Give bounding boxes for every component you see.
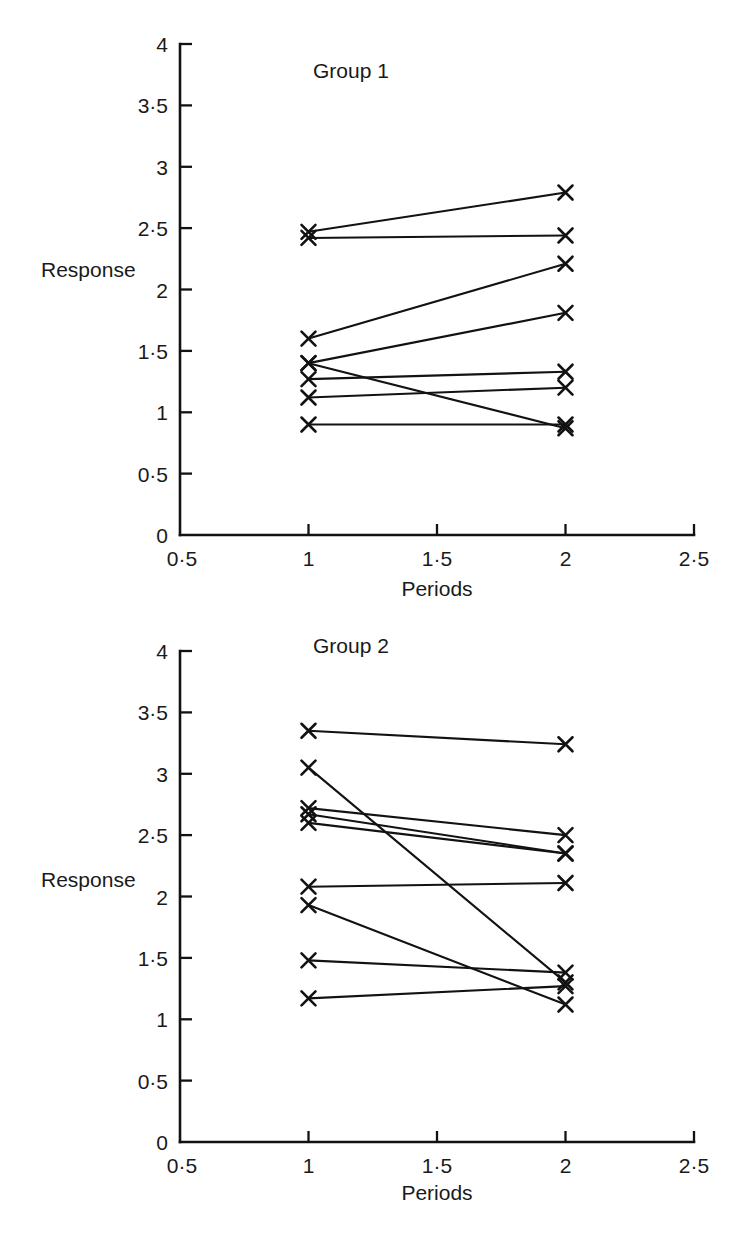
chart-panel-group-2: 4 3·5 3 2·5 2 1·5 1 0·5 0 0·5 1 1·5 2 2·…	[0, 600, 745, 1200]
series-line	[309, 264, 566, 339]
x-axis-ticks	[309, 524, 695, 535]
crossover-response-figure: 4 3·5 3 2·5 2 1·5 1 0·5 0 0·5 1 1·5 2 2·…	[0, 0, 745, 1237]
panel-title: Group 1	[313, 59, 389, 82]
x-axis-title: Periods	[401, 577, 472, 600]
y-tick-label: 2	[156, 886, 168, 909]
group-1-axes	[180, 44, 694, 535]
series-line	[309, 883, 566, 887]
x-tick-label: 2	[560, 547, 572, 570]
y-tick-label: 1·5	[138, 340, 168, 363]
y-tick-label: 0	[156, 1131, 168, 1154]
group-1-y-tick-labels: 4 3·5 3 2·5 2 1·5 1 0·5 0	[138, 33, 169, 547]
y-tick-label: 0·5	[138, 1070, 168, 1093]
y-tick-label: 0·5	[138, 463, 168, 486]
series-line	[309, 905, 566, 1004]
y-tick-label: 2	[156, 279, 168, 302]
group-2-axes	[180, 651, 694, 1142]
group-2-y-tick-labels: 4 3·5 3 2·5 2 1·5 1 0·5 0	[138, 640, 169, 1154]
x-tick-label: 1	[303, 1154, 315, 1177]
series-line	[309, 313, 566, 363]
data-point-marker	[302, 898, 316, 912]
y-tick-label: 2·5	[138, 217, 168, 240]
series-line	[309, 960, 566, 972]
series-line	[309, 768, 566, 983]
data-point-marker	[302, 332, 316, 346]
x-axis-ticks	[309, 1131, 695, 1142]
y-axis-ticks	[180, 44, 192, 474]
series-line	[309, 193, 566, 232]
x-axis-title: Periods	[401, 1181, 472, 1200]
y-tick-label: 0	[156, 524, 168, 547]
x-tick-label: 1·5	[422, 547, 452, 570]
group-1-plot: 4 3·5 3 2·5 2 1·5 1 0·5 0 0·5 1 1·5 2 2·…	[0, 0, 745, 600]
y-axis-ticks	[180, 651, 192, 1081]
y-tick-label: 1	[156, 401, 168, 424]
group-1-series-layer	[302, 186, 573, 436]
y-axis-title: Response	[41, 868, 136, 891]
x-tick-label: 2·5	[679, 547, 709, 570]
y-tick-label: 3·5	[138, 701, 168, 724]
series-line	[309, 814, 566, 853]
y-tick-label: 2·5	[138, 824, 168, 847]
data-point-marker	[559, 998, 573, 1012]
group-1-x-tick-labels: 0·5 1 1·5 2 2·5	[167, 547, 709, 570]
group-2-plot: 4 3·5 3 2·5 2 1·5 1 0·5 0 0·5 1 1·5 2 2·…	[0, 600, 745, 1200]
x-tick-label: 2	[560, 1154, 572, 1177]
group-2-x-tick-labels: 0·5 1 1·5 2 2·5	[167, 1154, 709, 1177]
y-tick-label: 4	[156, 33, 168, 56]
panel-title: Group 2	[313, 634, 389, 657]
series-line	[309, 731, 566, 745]
x-tick-label: 2·5	[679, 1154, 709, 1177]
series-line	[309, 823, 566, 854]
chart-panel-group-1: 4 3·5 3 2·5 2 1·5 1 0·5 0 0·5 1 1·5 2 2·…	[0, 0, 745, 600]
y-tick-label: 3·5	[138, 94, 168, 117]
y-tick-label: 1·5	[138, 947, 168, 970]
x-tick-label: 0·5	[167, 1154, 197, 1177]
data-point-marker	[559, 257, 573, 271]
x-tick-label: 1	[303, 547, 315, 570]
x-tick-label: 1·5	[422, 1154, 452, 1177]
y-axis-title: Response	[41, 258, 136, 281]
series-line	[309, 986, 566, 998]
series-line	[309, 808, 566, 835]
y-tick-label: 3	[156, 156, 168, 179]
y-tick-label: 4	[156, 640, 168, 663]
data-point-marker	[302, 761, 316, 775]
y-tick-label: 1	[156, 1008, 168, 1031]
series-line	[309, 235, 566, 237]
y-tick-label: 3	[156, 763, 168, 786]
group-2-series-layer	[302, 724, 573, 1012]
x-tick-label: 0·5	[167, 547, 197, 570]
